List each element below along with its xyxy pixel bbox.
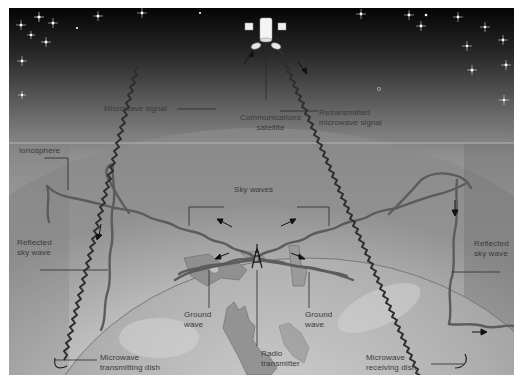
label-radio-transmitter: Radio transmitter <box>261 349 300 369</box>
label-retransmitted-microwave-signal: Retransmitted microwave signal <box>319 108 382 128</box>
label-sky-waves: Sky waves <box>234 185 273 195</box>
label-reflected-sky-wave-right: Reflected sky wave <box>474 239 509 259</box>
label-reflected-sky-wave-left: Reflected sky wave <box>17 238 52 258</box>
diagram-frame: Microwave signal Communications satellit… <box>9 8 514 375</box>
label-microwave-transmitting-dish: Microwave transmitting dish <box>100 353 160 373</box>
label-ground-wave-right: Ground wave <box>305 310 332 330</box>
label-ground-wave-left: Ground wave <box>184 310 211 330</box>
label-ionosphere: Ionosphere <box>19 146 60 156</box>
label-communications-satellite: Communications satellite <box>240 113 301 133</box>
label-microwave-signal: Microwave signal <box>104 104 167 114</box>
label-microwave-receiving-dish: Microwave receiving dish <box>366 353 416 373</box>
